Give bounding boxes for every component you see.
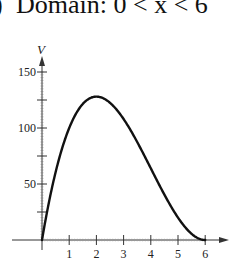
chart: 12345650100150 V [0,0,235,260]
ticks: 12345650100150 [18,65,208,260]
x-tick-label: 6 [202,247,208,260]
x-axis-arrow-icon [219,237,229,243]
x-tick-label: 4 [148,247,154,260]
x-tick-label: 2 [93,247,99,260]
y-tick-label: 150 [18,65,36,79]
x-tick-label: 5 [175,247,181,260]
y-axis-label: V [37,42,47,57]
x-tick-label: 1 [66,247,72,260]
y-axis-arrow-icon [39,56,45,66]
x-tick-label: 3 [121,247,127,260]
y-tick-label: 50 [24,177,36,191]
y-tick-label: 100 [18,121,36,135]
volume-curve [42,97,205,240]
